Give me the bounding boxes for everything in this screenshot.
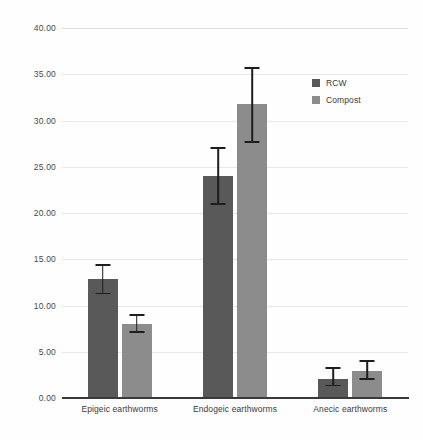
error-bar-stem (367, 360, 369, 379)
error-bar-cap-lower (211, 203, 226, 205)
legend: RCWCompost (312, 76, 361, 110)
x-axis-tick-label: Epigeic earthworms (62, 404, 177, 414)
gridline (62, 213, 408, 214)
error-bar-stem (333, 367, 335, 386)
error-bar-stem (217, 147, 219, 204)
error-bar-cap-lower (129, 331, 144, 333)
y-axis-tick-label: 25.00 (4, 162, 56, 172)
legend-swatch-icon (312, 79, 320, 87)
gridline (62, 28, 408, 29)
y-axis-tick-label: 5.00 (4, 347, 56, 357)
legend-item-label: Compost (326, 95, 361, 105)
legend-item: RCW (312, 76, 361, 90)
y-axis: 0.005.0010.0015.0020.0025.0030.0035.0040… (0, 0, 56, 440)
error-bar (352, 360, 382, 379)
gridline (62, 121, 408, 122)
error-bar-cap-upper (129, 314, 144, 316)
y-axis-tick-label: 35.00 (4, 69, 56, 79)
bar-chart: 0.005.0010.0015.0020.0025.0030.0035.0040… (0, 0, 423, 440)
gridline (62, 259, 408, 260)
error-bar-cap-upper (360, 360, 375, 362)
error-bar-cap-lower (245, 141, 260, 143)
y-axis-tick-label: 20.00 (4, 208, 56, 218)
error-bar-cap-lower (326, 385, 341, 387)
x-axis-tick-label: Anecic earthworms (293, 404, 408, 414)
error-bar (318, 367, 348, 386)
y-axis-tick-label: 15.00 (4, 254, 56, 264)
legend-swatch-icon (312, 96, 320, 104)
x-axis-tick-label: Endogeic earthworms (177, 404, 292, 414)
error-bar-stem (136, 314, 138, 333)
x-axis: Epigeic earthwormsEndogeic earthwormsAne… (62, 404, 408, 426)
gridline (62, 167, 408, 168)
y-axis-tick-label: 0.00 (4, 393, 56, 403)
bar (237, 104, 267, 398)
bar (203, 176, 233, 398)
legend-item-label: RCW (326, 78, 347, 88)
error-bar-stem (102, 264, 104, 295)
error-bar (88, 264, 118, 295)
y-axis-tick-label: 40.00 (4, 23, 56, 33)
error-bar (237, 67, 267, 143)
x-axis-baseline (62, 397, 409, 399)
error-bar (122, 314, 152, 333)
error-bar-cap-upper (326, 367, 341, 369)
error-bar (203, 147, 233, 204)
error-bar-cap-upper (211, 147, 226, 149)
error-bar-cap-lower (360, 378, 375, 380)
error-bar-cap-lower (95, 293, 110, 295)
legend-item: Compost (312, 93, 361, 107)
y-axis-tick-label: 10.00 (4, 301, 56, 311)
bar (122, 324, 152, 398)
error-bar-stem (251, 67, 253, 143)
error-bar-cap-upper (245, 67, 260, 69)
error-bar-cap-upper (95, 264, 110, 266)
y-axis-tick-label: 30.00 (4, 116, 56, 126)
bar (88, 279, 118, 398)
